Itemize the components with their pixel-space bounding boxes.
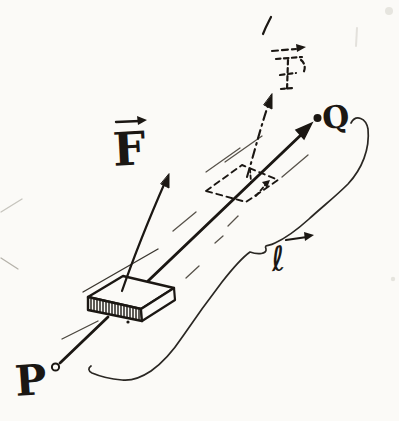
block-ghost <box>206 165 278 202</box>
ghost-force-letter-top-bar <box>276 57 302 59</box>
point-q-label: Q <box>321 98 351 136</box>
displacement-label-overbar-arrowhead-icon <box>304 232 314 241</box>
faint-stroke <box>1 258 18 269</box>
point-p-label: P <box>13 355 48 406</box>
force-ghost-label <box>272 44 306 90</box>
faint-stroke <box>1 199 22 212</box>
paper-smudge <box>385 7 393 15</box>
force-label: F <box>112 116 148 177</box>
block-solid <box>88 276 175 321</box>
hatch-mark <box>228 216 238 226</box>
hatch-mark <box>225 136 262 162</box>
displacement-label: ℓ <box>268 232 314 279</box>
ghost-force-letter-mid-bar <box>280 73 296 75</box>
faint-stroke <box>356 28 357 46</box>
displacement-label-overbar-arrow <box>286 237 307 240</box>
hatch-mark <box>282 155 308 177</box>
ghost-force-letter-hook <box>301 60 305 73</box>
force-arrow-shaft <box>122 180 166 291</box>
force-label-letter: F <box>112 121 148 177</box>
ghost-force-arrowhead-icon <box>264 94 272 109</box>
displacement-label-letter: ℓ <box>268 238 287 279</box>
path-boundary <box>62 17 368 380</box>
ghost-force-letter-base-serif <box>281 88 294 89</box>
ghost-force-shaft <box>247 100 270 177</box>
ghost-force-label-overbar-arrowhead-icon <box>296 44 306 52</box>
paper-marks <box>1 7 395 281</box>
ghost-force-label-overbar-arrow <box>272 49 296 51</box>
line-start-circle <box>52 363 59 370</box>
hatch-mark <box>206 148 240 172</box>
line-end-dot <box>314 114 322 122</box>
paper-smudge <box>391 277 395 281</box>
hatch-mark <box>215 236 223 243</box>
line-segment-lower <box>60 317 108 363</box>
force-arrowhead-icon <box>161 174 169 188</box>
hatch-mark <box>186 266 199 278</box>
ghost-block-edge-tick <box>250 169 251 182</box>
physics-diagram: F ℓ P Q <box>0 0 399 421</box>
hatch-mark <box>173 212 196 231</box>
sketch-canvas: F ℓ P Q <box>0 0 399 421</box>
stray-tick <box>263 17 271 34</box>
ink-dot <box>126 320 129 323</box>
force-arrow <box>122 174 169 291</box>
